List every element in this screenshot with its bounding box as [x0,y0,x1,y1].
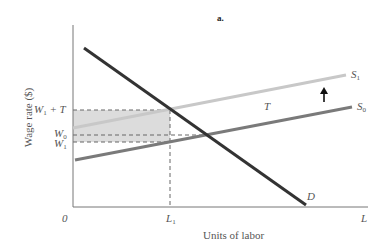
s1-label: S1 [351,69,360,82]
up-arrow-icon [320,87,328,102]
x-axis-label: Units of labor [203,230,264,241]
s0-label: S0 [357,101,366,114]
y-tick-w1t-main: W [34,103,43,115]
t-label: T [264,101,270,112]
y-axis-label: Wage rate ($) [23,78,34,158]
x-tick-l1: L1 [166,213,176,226]
y-tick-w1-plus-t: W1 + T [34,104,66,117]
y-tick-w1t-rest: + T [47,103,66,115]
d-label: D [307,191,315,202]
supply-s1-line [73,75,346,128]
y-tick-w1-sub: 1 [63,143,67,151]
s0-label-sub: 0 [363,106,367,114]
s1-label-sub: 1 [357,74,361,82]
chart-title: a. [217,14,224,23]
x-tick-l1-sub: 1 [172,218,176,226]
chart-canvas [0,0,385,250]
x-tick-origin: 0 [62,213,68,224]
y-tick-w1-main: W [54,137,63,149]
y-tick-w1: W1 [54,138,67,151]
x-tick-l: L [361,213,367,224]
